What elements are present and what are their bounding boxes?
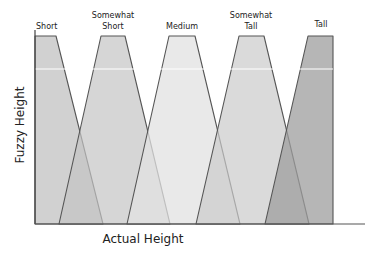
label-tall: Tall [314,20,328,29]
label-medium: Medium [166,22,198,31]
label-somewhat-short-line2: Short [102,22,123,31]
x-axis-title: Actual Height [102,232,183,246]
y-axis-title: Fuzzy Height [13,86,27,163]
label-somewhat-tall-line2: Tall [244,22,258,31]
membership-functions [35,36,333,224]
label-somewhat-tall-line1: Somewhat [230,11,272,20]
label-somewhat-short-line1: Somewhat [92,11,134,20]
fuzzy-membership-chart: Short Somewhat Short Medium Somewhat Tal… [0,0,380,260]
label-short: Short [36,22,57,31]
